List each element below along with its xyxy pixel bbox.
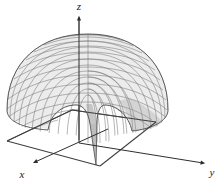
y-axis-label: y	[209, 166, 215, 178]
z-axis-label: z	[76, 0, 82, 12]
x-axis-label: x	[19, 168, 25, 180]
surface-plot-figure: z y x	[0, 0, 223, 185]
y-axis	[79, 143, 203, 163]
plot-canvas: z y x	[0, 0, 223, 185]
dome-surface	[7, 34, 168, 165]
